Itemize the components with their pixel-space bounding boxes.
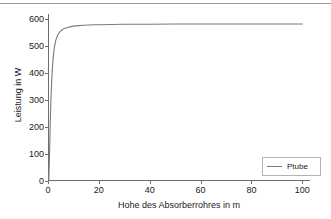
- legend-label-ptube: Ptube: [287, 162, 308, 171]
- y-tick-label: 300: [29, 96, 44, 105]
- series-curve-ptube: [48, 14, 310, 181]
- x-tick-mark: [302, 181, 303, 184]
- y-axis-title: Leistung in W: [13, 40, 23, 150]
- y-tick-label: 600: [29, 15, 44, 24]
- x-tick-label: 0: [28, 186, 68, 195]
- y-tick-label: 200: [29, 123, 44, 132]
- x-tick-label: 100: [282, 186, 322, 195]
- x-tick-mark: [251, 181, 252, 184]
- x-axis-title: Hohe des Absorberrohres in m: [48, 200, 310, 211]
- x-tick-label: 20: [79, 186, 119, 195]
- y-tick-label: 500: [29, 42, 44, 51]
- x-tick-label: 40: [130, 186, 170, 195]
- x-tick-label: 60: [181, 186, 221, 195]
- y-tick-label: 0: [39, 177, 44, 186]
- x-axis-tick-labels: 020406080100: [48, 186, 310, 198]
- chart-figure: 0100200300400500600 020406080100 Leistun…: [0, 0, 331, 219]
- x-tick-label: 80: [231, 186, 271, 195]
- legend-box: Ptube: [262, 157, 321, 176]
- plot-area: [48, 14, 310, 181]
- legend-swatch-ptube: [267, 166, 282, 167]
- top-divider-rule: [0, 3, 331, 4]
- x-tick-mark: [201, 181, 202, 184]
- y-tick-label: 400: [29, 69, 44, 78]
- x-tick-mark: [150, 181, 151, 184]
- y-tick-label: 100: [29, 150, 44, 159]
- x-tick-mark: [99, 181, 100, 184]
